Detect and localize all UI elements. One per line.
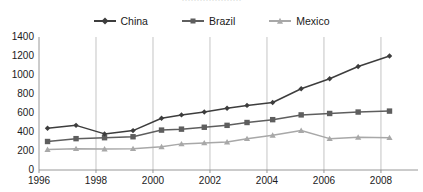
y-tick-label: 400	[0, 127, 34, 137]
x-tick-label: 1998	[76, 176, 116, 186]
data-point-china	[327, 76, 332, 81]
data-point-brazil	[355, 109, 360, 114]
x-tick-label: 2000	[133, 176, 173, 186]
data-point-brazil	[159, 127, 164, 132]
data-point-china	[179, 112, 184, 117]
x-tick-label: 2002	[190, 176, 230, 186]
data-point-china	[355, 64, 360, 69]
y-tick-label: 200	[0, 146, 34, 156]
x-tick-label: 1996	[19, 176, 59, 186]
data-point-china	[73, 123, 78, 128]
x-tick-label: 2004	[247, 176, 287, 186]
data-point-brazil	[327, 111, 332, 116]
data-point-brazil	[45, 139, 50, 144]
data-point-china	[387, 53, 392, 58]
data-point-china	[159, 116, 164, 121]
data-point-brazil	[244, 120, 249, 125]
data-point-brazil	[179, 126, 184, 131]
data-point-brazil	[224, 123, 229, 128]
data-point-china	[130, 128, 135, 133]
y-tick-label: 1400	[0, 32, 34, 42]
x-tick-label: 2006	[304, 176, 344, 186]
data-point-china	[244, 103, 249, 108]
data-point-brazil	[270, 117, 275, 122]
plot-svg	[0, 0, 423, 192]
y-tick-label: 1200	[0, 51, 34, 61]
data-point-brazil	[298, 112, 303, 117]
data-point-china	[45, 126, 50, 131]
y-tick-label: 0	[0, 165, 34, 175]
plot-area: 0200400600800100012001400 19961998200020…	[0, 0, 423, 192]
x-tick-label: 2008	[361, 176, 401, 186]
line-chart: ···················· China Brazil Mexico	[0, 0, 423, 192]
data-point-china	[202, 109, 207, 114]
data-point-brazil	[130, 134, 135, 139]
y-tick-label: 600	[0, 108, 34, 118]
data-point-brazil	[387, 108, 392, 113]
y-tick-label: 1000	[0, 70, 34, 80]
data-point-china	[224, 106, 229, 111]
data-point-brazil	[202, 125, 207, 130]
y-tick-label: 800	[0, 89, 34, 99]
data-point-china	[270, 100, 275, 105]
data-point-china	[298, 86, 303, 91]
data-point-brazil	[73, 136, 78, 141]
